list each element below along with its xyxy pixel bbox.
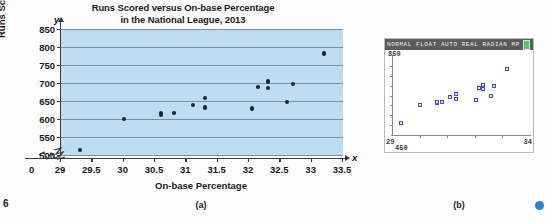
calculator-xmin-label: 29 xyxy=(386,138,394,146)
y-axis-tick xyxy=(57,47,61,48)
calculator-scatter-point xyxy=(474,98,478,102)
gridline xyxy=(61,101,343,102)
y-axis-tick xyxy=(57,65,61,66)
figure-root: Runs Scored versus On-base Percentage in… xyxy=(0,0,548,223)
calculator-scatter-point xyxy=(454,97,458,101)
gridline xyxy=(61,29,343,30)
x-axis-tick-label: 30 xyxy=(117,164,128,175)
scatter-point xyxy=(291,82,295,86)
scatter-point xyxy=(256,85,260,89)
calculator-y-tick xyxy=(390,66,393,67)
calculator-x-tick xyxy=(420,135,421,138)
calculator-scatter-point xyxy=(505,67,509,71)
gridline xyxy=(61,83,343,84)
corner-decoration-dot xyxy=(535,201,544,210)
chart-title-line-1: Runs Scored versus On-base Percentage xyxy=(48,2,318,14)
y-axis-title: Runs Scored xyxy=(0,0,7,38)
calculator-y-tick xyxy=(390,115,393,116)
x-axis-tick xyxy=(123,158,124,162)
y-axis-tick-label: 600 xyxy=(39,114,55,125)
calculator-scatter-point xyxy=(435,100,439,104)
y-axis-tick xyxy=(57,137,61,138)
gridline xyxy=(61,65,343,66)
calculator-scatter-point xyxy=(399,121,403,125)
y-axis-tick-label: 800 xyxy=(39,42,55,53)
y-axis-tick xyxy=(57,101,61,102)
scatter-point xyxy=(266,86,270,90)
calculator-y-tick xyxy=(390,105,393,106)
gridline xyxy=(61,47,343,48)
calculator-scatter-point xyxy=(492,84,496,88)
x-axis-tick-label: 33 xyxy=(305,164,316,175)
scatter-point xyxy=(250,106,254,110)
x-axis-tick-label: 33.5 xyxy=(333,164,352,175)
x-axis-tick-label: 30.5 xyxy=(145,164,164,175)
calculator-y-tick xyxy=(390,76,393,77)
chart-title-line-2: in the National League, 2013 xyxy=(48,14,318,26)
calculator-scatter-point xyxy=(418,103,422,107)
battery-icon xyxy=(523,40,530,50)
x-axis-tick xyxy=(342,158,343,162)
calculator-x-tick xyxy=(502,135,503,138)
x-axis-title: On-base Percentage xyxy=(60,180,342,191)
x-axis-arrow-icon xyxy=(345,155,350,161)
scatter-point xyxy=(203,105,207,109)
y-axis-tick xyxy=(57,83,61,84)
x-axis-tick xyxy=(217,158,218,162)
x-axis-tick xyxy=(311,158,312,162)
calculator-screen: NORMAL FLOAT AUTO REAL RADIAN MP 850 29 … xyxy=(384,38,534,153)
calculator-status-bar: NORMAL FLOAT AUTO REAL RADIAN MP xyxy=(385,39,533,50)
calculator-scatter-point xyxy=(448,95,452,99)
y-axis-tick xyxy=(57,29,61,30)
calculator-y-tick xyxy=(390,86,393,87)
panel-a-scatter-chart: Runs Scored versus On-base Percentage in… xyxy=(0,0,370,205)
calculator-mode-text: NORMAL FLOAT AUTO REAL RADIAN MP xyxy=(387,41,523,48)
calculator-x-axis xyxy=(391,135,531,136)
scatter-point xyxy=(285,100,289,104)
x-axis-variable-letter: x xyxy=(352,152,357,163)
y-axis-tick-label: 750 xyxy=(39,60,55,71)
x-axis-tick-label: 32 xyxy=(243,164,254,175)
x-axis-tick-label: 31 xyxy=(180,164,191,175)
calculator-scatter-point xyxy=(454,92,458,96)
x-axis-tick-label: 32.5 xyxy=(270,164,289,175)
calculator-y-tick xyxy=(390,125,393,126)
panel-b-calculator: NORMAL FLOAT AUTO REAL RADIAN MP 850 29 … xyxy=(384,38,534,153)
gridline xyxy=(61,119,343,120)
y-axis-tick-label: 850 xyxy=(39,24,55,35)
scatter-point xyxy=(203,96,207,100)
calculator-x-tick xyxy=(447,135,448,138)
y-axis-tick-label: 650 xyxy=(39,96,55,107)
panel-b-caption: (b) xyxy=(384,200,534,210)
gridline xyxy=(61,155,343,156)
calculator-ymin-label: 450 xyxy=(395,144,408,152)
plot-area: 500550600650700750800850 xyxy=(60,29,343,155)
calculator-scatter-point xyxy=(440,100,444,104)
calculator-scatter-point xyxy=(481,87,485,91)
chart-title: Runs Scored versus On-base Percentage in… xyxy=(48,2,318,25)
x-axis-tick-label: 29.5 xyxy=(82,164,101,175)
x-axis-tick-label: 29 xyxy=(55,164,66,175)
y-axis-tick-label: 700 xyxy=(39,78,55,89)
y-axis-tick xyxy=(57,119,61,120)
gridline xyxy=(61,137,343,138)
scatter-point xyxy=(322,51,326,55)
origin-label: 0 xyxy=(29,164,34,175)
scatter-point xyxy=(266,79,270,83)
scatter-point xyxy=(78,148,82,152)
calculator-x-tick xyxy=(475,135,476,138)
scatter-point xyxy=(191,103,195,107)
scatter-point xyxy=(122,117,126,121)
calculator-y-tick xyxy=(390,96,393,97)
x-axis-tick xyxy=(154,158,155,162)
calculator-scatter-point xyxy=(489,94,493,98)
x-axis-tick xyxy=(60,158,61,162)
x-axis-tick xyxy=(185,158,186,162)
x-axis-tick xyxy=(91,158,92,162)
x-axis-tick xyxy=(279,158,280,162)
calculator-plot-area xyxy=(385,50,533,152)
calculator-xmax-label: 34 xyxy=(524,138,532,146)
page-number: 6 xyxy=(3,198,9,209)
x-axis-tick xyxy=(248,158,249,162)
panel-a-caption: (a) xyxy=(60,200,342,210)
